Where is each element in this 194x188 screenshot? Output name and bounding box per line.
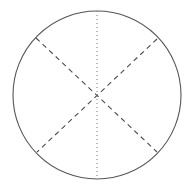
- circle-diagram-svg: [0, 0, 194, 188]
- diagram-canvas: [0, 0, 194, 188]
